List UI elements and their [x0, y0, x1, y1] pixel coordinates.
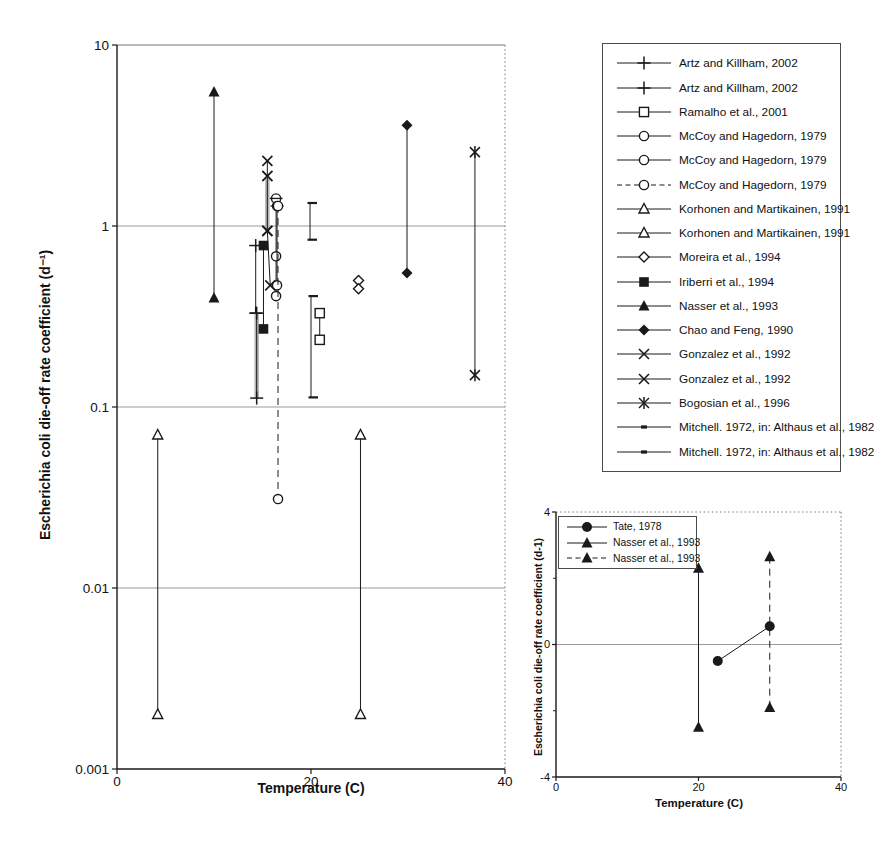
circle-filled-marker-icon [565, 520, 609, 534]
series [308, 203, 318, 240]
series [693, 562, 704, 732]
legend-item: Moreira et al., 1994 [615, 250, 840, 264]
series [355, 430, 365, 719]
legend-item: Korhonen and Martikainen, 1991 [615, 202, 840, 216]
legend-item-label: Artz and Killham, 2002 [679, 56, 798, 70]
legend-item-label: Nasser et al., 1993 [613, 537, 700, 548]
legend-item: Artz and Killham, 2002 [615, 56, 840, 70]
x-tick-label: 40 [835, 781, 847, 793]
main-x-axis-label: Temperature (C) [211, 780, 411, 796]
y-tick-label: 0.01 [83, 581, 109, 596]
legend-item-label: Iriberri et al., 1994 [679, 275, 774, 289]
legend-item: Chao and Feng, 1990 [615, 323, 840, 337]
legend-item-label: Mitchell. 1972, in: Althaus et al., 1982 [679, 420, 874, 434]
triangle-open-marker-icon [615, 226, 673, 240]
legend-item-label: Gonzalez et al., 1992 [679, 372, 791, 386]
series [470, 146, 480, 381]
legend-item-label: McCoy and Hagedorn, 1979 [679, 129, 827, 143]
legend-item: Nasser et al., 1993 [615, 299, 840, 313]
legend-item: Mitchell. 1972, in: Althaus et al., 1982 [615, 420, 840, 434]
y-tick-label: 1 [101, 219, 109, 234]
legend-item-label: Korhonen and Martikainen, 1991 [679, 202, 850, 216]
main-y-axis-label: Escherichia coli die-off rate coefficien… [37, 185, 53, 605]
legend-item-label: Nasser et al., 1993 [613, 553, 700, 564]
triangle-filled-marker-icon [565, 551, 609, 565]
legend-item-label: Tate, 1978 [613, 521, 662, 532]
legend-item: Mitchell. 1972, in: Althaus et al., 1982 [615, 445, 840, 459]
legend-item-label: McCoy and Hagedorn, 1979 [679, 153, 827, 167]
series [250, 307, 263, 405]
diamond-open-marker-icon [615, 250, 673, 264]
triangle-filled-marker-icon [565, 536, 609, 550]
series [354, 275, 364, 293]
plus-marker-icon [615, 81, 673, 95]
x-marker-icon [615, 372, 673, 386]
circle-open-marker-icon [615, 153, 673, 167]
legend-item-label: McCoy and Hagedorn, 1979 [679, 178, 827, 192]
legend-item-label: Ramalho et al., 2001 [679, 105, 788, 119]
legend-item: Ramalho et al., 2001 [615, 105, 840, 119]
circle-open-marker-icon [615, 178, 673, 192]
legend-item-label: Chao and Feng, 1990 [679, 323, 793, 337]
triangle-open-marker-icon [615, 202, 673, 216]
inset-y-axis-label: Escherichia coli die-off rate coefficien… [532, 518, 544, 776]
legend-item: Korhonen and Martikainen, 1991 [615, 226, 840, 240]
x-tick-label: 40 [497, 774, 512, 789]
legend-item: Tate, 1978 [565, 520, 696, 534]
diamond-filled-marker-icon [615, 323, 673, 337]
x-tick-label: 0 [113, 774, 121, 789]
legend-item: McCoy and Hagedorn, 1979 [615, 129, 840, 143]
dash-marker-icon [615, 445, 673, 459]
series [315, 309, 324, 345]
plus-marker-icon [615, 56, 673, 70]
series [713, 621, 775, 666]
x-tick-label: 20 [692, 781, 704, 793]
series [153, 430, 163, 719]
square-open-marker-icon [615, 105, 673, 119]
legend-item-label: Bogosian et al., 1996 [679, 396, 790, 410]
legend-item-label: Gonzalez et al., 1992 [679, 347, 791, 361]
x-tick-label: 0 [553, 781, 559, 793]
figure-canvas: 1010.10.010.0010204040-402040 Escherichi… [0, 0, 888, 858]
legend-item-label: Moreira et al., 1994 [679, 250, 781, 264]
series [209, 86, 220, 303]
series [402, 120, 413, 279]
legend-item-label: Mitchell. 1972, in: Althaus et al., 1982 [679, 445, 874, 459]
circle-open-marker-icon [615, 129, 673, 143]
y-tick-label: 4 [544, 506, 550, 518]
y-tick-label: 0.1 [90, 400, 109, 415]
legend-item-label: Korhonen and Martikainen, 1991 [679, 226, 850, 240]
dash-marker-icon [615, 420, 673, 434]
legend-item: Bogosian et al., 1996 [615, 396, 840, 410]
y-tick-label: 10 [94, 38, 109, 53]
series [273, 201, 282, 503]
y-tick-label: 0.001 [75, 762, 109, 777]
legend-item: McCoy and Hagedorn, 1979 [615, 153, 840, 167]
main-chart: 1010.10.010.00102040 [75, 38, 512, 789]
series [249, 239, 262, 320]
series [764, 551, 775, 712]
legend-item: McCoy and Hagedorn, 1979 [615, 178, 840, 192]
legend-item: Gonzalez et al., 1992 [615, 372, 840, 386]
series [259, 241, 269, 334]
square-filled-marker-icon [615, 275, 673, 289]
asterisk-marker-icon [615, 396, 673, 410]
triangle-filled-marker-icon [615, 299, 673, 313]
legend-item-label: Nasser et al., 1993 [679, 299, 778, 313]
legend-item-label: Artz and Killham, 2002 [679, 81, 798, 95]
legend-item: Artz and Killham, 2002 [615, 81, 840, 95]
series [271, 201, 284, 290]
main-legend: Artz and Killham, 2002Artz and Killham, … [602, 43, 841, 472]
inset-x-axis-label: Temperature (C) [599, 797, 799, 809]
legend-item: Nasser et al., 1993 [565, 536, 696, 550]
x-marker-icon [615, 347, 673, 361]
y-tick-label: 0 [544, 638, 550, 650]
legend-item: Gonzalez et al., 1992 [615, 347, 840, 361]
legend-item: Iriberri et al., 1994 [615, 275, 840, 289]
legend-item: Nasser et al., 1993 [565, 551, 696, 565]
inset-legend: Tate, 1978Nasser et al., 1993Nasser et a… [558, 516, 697, 569]
